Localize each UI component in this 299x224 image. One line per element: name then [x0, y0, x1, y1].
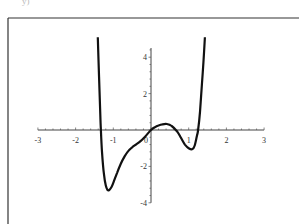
y-tick-label: -4 [140, 199, 147, 208]
x-tick-label: 2 [224, 136, 228, 145]
x-tick-label: 1 [187, 136, 191, 145]
axes: -3-2-1012342-2-4 [35, 48, 267, 208]
plot-area: -3-2-1012342-2-4 [0, 0, 299, 224]
x-tick-label: -3 [35, 136, 42, 145]
frame [8, 18, 299, 224]
y-tick-label: 2 [143, 90, 147, 99]
x-tick-label: -2 [72, 136, 79, 145]
y-tick-label: 4 [143, 53, 147, 62]
x-tick-label: -1 [110, 136, 117, 145]
y-tick-label: -2 [140, 162, 147, 171]
x-tick-label: 3 [262, 136, 266, 145]
